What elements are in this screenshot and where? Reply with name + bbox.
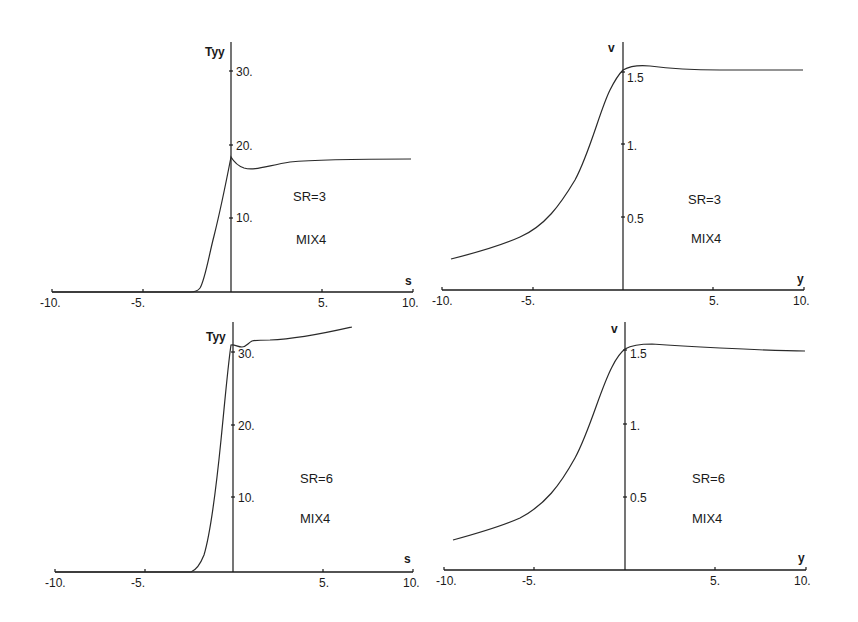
- x-tick-label: -5.: [521, 294, 535, 308]
- sr-annotation: SR=3: [688, 192, 721, 207]
- x-tick-label: -10.: [45, 576, 66, 590]
- y-tick-label: 30.: [238, 347, 255, 361]
- y-tick-label: 20.: [236, 139, 253, 153]
- x-axis-label: y: [797, 272, 804, 286]
- y-axis-label: Tyy: [206, 330, 226, 344]
- y-tick-label: 10.: [238, 491, 255, 505]
- mix-annotation: MIX4: [691, 231, 721, 246]
- v-curve: [453, 344, 805, 540]
- panel-bottom-right: v y 1.5 1. 0.5 -10. -5. 5. 10. SR=6 MIX4: [436, 322, 811, 588]
- mix-annotation: MIX4: [300, 511, 330, 526]
- y-axis-label: v: [611, 322, 618, 336]
- y-tick-label: 1.: [630, 419, 640, 433]
- y-tick-label: 0.5: [627, 212, 644, 226]
- x-tick-label: 10.: [402, 296, 419, 310]
- panel-top-right: v y 1.5 1. 0.5 -10. -5. 5. 10. SR=3 MIX4: [432, 41, 810, 308]
- y-tick-label: 20.: [238, 419, 255, 433]
- tyy-curve: [55, 327, 352, 572]
- y-axis-label: Tyy: [205, 45, 225, 59]
- x-axis-label: s: [405, 274, 412, 288]
- panel-bottom-left: Tyy s 30. 20. 10. -10. -5. 5. 10. SR=6 M…: [45, 322, 420, 590]
- x-tick-label: 5.: [709, 294, 719, 308]
- x-tick-label: 5.: [319, 576, 329, 590]
- x-tick-label: -5.: [131, 296, 145, 310]
- sr-annotation: SR=6: [692, 471, 725, 486]
- x-axis-label: y: [798, 551, 805, 565]
- figure: Tyy s 30. 20. 10. -10. -5. 5. 10. SR=3 M…: [0, 0, 858, 622]
- mix-annotation: MIX4: [296, 232, 326, 247]
- sr-annotation: SR=6: [300, 471, 333, 486]
- x-tick-label: 5.: [318, 296, 328, 310]
- v-curve: [451, 66, 803, 259]
- x-tick-label: -10.: [432, 294, 453, 308]
- x-tick-label: 10.: [403, 576, 420, 590]
- sr-annotation: SR=3: [293, 189, 326, 204]
- x-tick-label: 10.: [793, 294, 810, 308]
- x-axis-label: s: [404, 552, 411, 566]
- panel-top-left: Tyy s 30. 20. 10. -10. -5. 5. 10. SR=3 M…: [40, 42, 419, 310]
- x-tick-label: -5.: [522, 574, 536, 588]
- mix-annotation: MIX4: [692, 511, 722, 526]
- x-tick-label: 10.: [794, 574, 811, 588]
- y-tick-label: 0.5: [630, 491, 647, 505]
- x-tick-label: -10.: [40, 296, 61, 310]
- y-tick-label: 30.: [236, 65, 253, 79]
- y-tick-label: 1.5: [630, 347, 647, 361]
- y-tick-label: 10.: [236, 211, 253, 225]
- y-tick-label: 1.5: [627, 71, 644, 85]
- y-tick-label: 1.: [627, 139, 637, 153]
- x-tick-label: -5.: [131, 576, 145, 590]
- x-tick-label: -10.: [436, 574, 457, 588]
- x-tick-label: 5.: [710, 574, 720, 588]
- y-axis-label: v: [608, 41, 615, 55]
